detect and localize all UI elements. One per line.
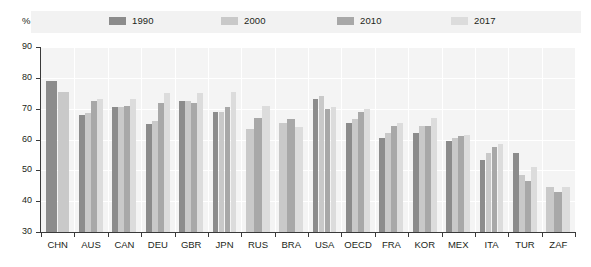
bar-ITA-2017: [498, 144, 504, 232]
bar-ITA-2000: [486, 153, 492, 232]
x-tick-mark-9: [341, 233, 342, 237]
y-tick-label-30: 30: [2, 227, 32, 236]
chart-legend: 1990200020102017: [31, 11, 581, 33]
bar-ITA-1990: [480, 160, 486, 232]
legend-swatch-1990: [109, 17, 126, 25]
bar-OECD-1990: [346, 123, 352, 232]
x-tick-mark-8: [308, 233, 309, 237]
legend-swatch-2000: [221, 17, 238, 25]
bar-BRA-2000: [279, 123, 287, 232]
bar-OECD-2010: [358, 112, 364, 232]
bar-USA-2000: [319, 96, 325, 232]
bar-CAN-2010: [124, 106, 130, 232]
bar-TUR-2010: [525, 181, 531, 232]
bar-OECD-2000: [352, 119, 358, 232]
y-axis-unit-label: %: [22, 15, 30, 26]
legend-item-2010: 2010: [337, 16, 382, 25]
bar-MEX-1990: [446, 141, 452, 232]
bar-CAN-2000: [118, 107, 124, 232]
x-tick-mark-1: [74, 233, 75, 237]
y-tick-label-60: 60: [2, 135, 32, 144]
chart-root: % 1990200020102017 30405060708090 CHNAUS…: [0, 0, 591, 267]
bar-MEX-2000: [452, 138, 458, 232]
bar-CAN-2017: [130, 99, 136, 232]
x-tick-mark-3: [141, 233, 142, 237]
y-tick-label-50: 50: [2, 165, 32, 174]
x-tick-mark-0: [41, 233, 42, 237]
bar-BRA-2017: [295, 127, 303, 232]
bar-KOR-1990: [413, 133, 419, 232]
bar-CAN-1990: [112, 107, 118, 232]
x-tick-mark-12: [442, 233, 443, 237]
legend-label-2017: 2017: [474, 16, 496, 25]
bar-AUS-2010: [91, 101, 97, 232]
bar-CHN-1990: [46, 81, 58, 232]
bar-KOR-2010: [425, 126, 431, 232]
legend-item-2017: 2017: [451, 16, 496, 25]
bar-DEU-1990: [146, 124, 152, 232]
bar-FRA-1990: [379, 138, 385, 232]
bar-OECD-2017: [364, 109, 370, 232]
bar-CHN-2000: [58, 92, 70, 232]
bar-JPN-2010: [225, 107, 231, 232]
x-tick-mark-13: [475, 233, 476, 237]
bar-ZAF-2017: [562, 187, 570, 232]
bar-GBR-2000: [185, 101, 191, 232]
bar-TUR-1990: [513, 153, 519, 232]
bar-FRA-2000: [385, 133, 391, 232]
bar-DEU-2017: [164, 93, 170, 232]
y-tick-label-80: 80: [2, 73, 32, 82]
bar-MEX-2010: [458, 136, 464, 232]
x-tick-mark-7: [275, 233, 276, 237]
y-tick-label-90: 90: [2, 42, 32, 51]
bar-AUS-2017: [97, 99, 103, 232]
legend-item-2000: 2000: [221, 16, 266, 25]
bar-MEX-2017: [464, 135, 470, 232]
legend-item-1990: 1990: [109, 16, 154, 25]
bars-layer: [41, 47, 575, 232]
legend-label-2000: 2000: [244, 16, 266, 25]
bar-GBR-1990: [179, 101, 185, 232]
bar-AUS-1990: [79, 115, 85, 232]
bar-KOR-2000: [419, 126, 425, 232]
bar-USA-1990: [313, 99, 319, 232]
bar-FRA-2017: [397, 123, 403, 232]
x-tick-mark-6: [241, 233, 242, 237]
bar-GBR-2017: [197, 93, 203, 232]
bar-ZAF-2010: [554, 192, 562, 232]
bar-JPN-2017: [231, 92, 237, 232]
legend-label-2010: 2010: [360, 16, 382, 25]
x-tick-mark-5: [208, 233, 209, 237]
legend-label-1990: 1990: [132, 16, 154, 25]
bar-RUS-2017: [262, 106, 270, 232]
bar-AUS-2000: [85, 113, 91, 232]
bar-ZAF-2000: [546, 187, 554, 232]
x-tick-mark-2: [108, 233, 109, 237]
bar-RUS-2000: [246, 129, 254, 232]
bar-TUR-2000: [519, 175, 525, 232]
bar-USA-2010: [325, 109, 331, 232]
x-tick-mark-14: [508, 233, 509, 237]
x-tick-mark-11: [408, 233, 409, 237]
bar-JPN-1990: [213, 112, 219, 232]
x-tick-mark-16: [575, 233, 576, 237]
bar-DEU-2000: [152, 121, 158, 232]
y-tick-label-40: 40: [2, 196, 32, 205]
x-tick-mark-4: [175, 233, 176, 237]
bar-FRA-2010: [391, 126, 397, 232]
bar-JPN-2000: [219, 112, 225, 232]
x-tick-mark-10: [375, 233, 376, 237]
bar-USA-2017: [331, 107, 337, 232]
legend-swatch-2010: [337, 17, 354, 25]
bar-ITA-2010: [492, 147, 498, 232]
y-tick-label-70: 70: [2, 104, 32, 113]
bar-RUS-2010: [254, 118, 262, 232]
bar-GBR-2010: [191, 103, 197, 233]
x-tick-mark-15: [542, 233, 543, 237]
bar-TUR-2017: [531, 167, 537, 232]
bar-BRA-2010: [287, 119, 295, 232]
legend-swatch-2017: [451, 17, 468, 25]
bar-KOR-2017: [431, 118, 437, 232]
bar-DEU-2010: [158, 103, 164, 233]
x-category-label-ZAF: ZAF: [536, 240, 581, 250]
